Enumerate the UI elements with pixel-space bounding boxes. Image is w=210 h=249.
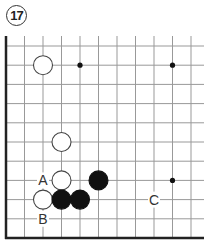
black-stone-icon	[89, 171, 108, 190]
white-stone-icon	[52, 133, 71, 152]
star-point-icon	[170, 178, 175, 183]
point-label-c: C	[149, 192, 159, 208]
point-label-a: A	[38, 172, 48, 188]
white-stone-icon	[52, 171, 71, 190]
go-board-diagram: ABC	[0, 0, 210, 249]
star-point-icon	[170, 63, 175, 68]
black-stone-icon	[71, 190, 90, 209]
white-stone-icon	[34, 56, 53, 75]
white-stone-icon	[34, 190, 53, 209]
black-stone-icon	[52, 190, 71, 209]
point-label-b: B	[38, 211, 47, 227]
star-point-icon	[77, 63, 82, 68]
